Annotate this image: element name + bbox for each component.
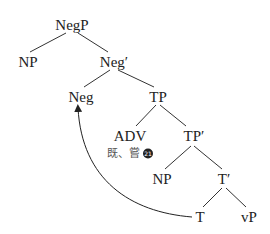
branch-negp-negbar [78,33,108,52]
branch-tpbar-tbar [194,146,222,169]
branch-negp-np [30,33,66,52]
node-negp: NegP [55,18,88,33]
branch-tp-adv [136,105,156,126]
node-t: T [195,210,204,225]
node-tp: TP [149,90,167,105]
node-neg-bar: Neg′ [100,55,128,70]
syntax-tree: NegP NP Neg′ Neg TP ADV TP′ 既、嘗21 NP T′ … [0,0,270,234]
movement-arrow [78,108,192,217]
footnote-circle-icon: 21 [143,149,153,159]
adv-lexical-text: 既、嘗 [107,147,140,160]
node-vp: vP [241,210,257,225]
branch-negbar-tp [118,70,154,87]
tree-branches [0,0,270,234]
branch-tpbar-np [165,146,191,169]
branch-tbar-t [203,188,222,207]
node-neg: Neg [69,90,94,105]
node-adv: ADV [114,129,147,144]
node-tp-bar: TP′ [184,129,205,144]
node-t-bar: T′ [218,172,230,187]
branch-tbar-vp [226,188,246,207]
node-np-specifier: NP [18,55,37,70]
branch-tp-tpbar [160,105,186,126]
branch-negbar-neg [84,70,110,87]
adv-lexical-items: 既、嘗21 [107,148,153,159]
node-np-subject: NP [152,172,171,187]
